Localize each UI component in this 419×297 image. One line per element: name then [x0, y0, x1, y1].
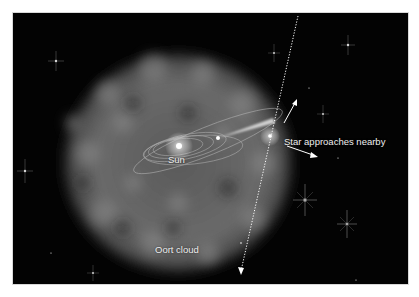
sun [176, 143, 182, 149]
sun-label: Sun [168, 154, 185, 165]
diagram-graphic [13, 13, 408, 284]
arrow-down-right-head-icon [310, 152, 318, 158]
arrow-up-right-head-icon [292, 99, 297, 106]
trajectory-arrowhead-icon [238, 267, 244, 275]
star-label: Star approaches nearby [284, 136, 385, 147]
oort-cloud-diagram: Sun Star approaches nearby Oort cloud [13, 13, 408, 284]
approaching-star [268, 134, 272, 138]
oort-cloud-label: Oort cloud [155, 244, 199, 255]
